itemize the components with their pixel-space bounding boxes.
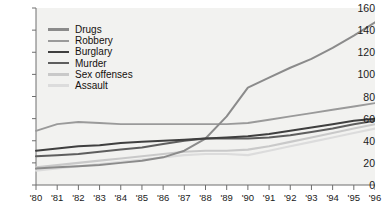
y-axis-tick-label: 0 xyxy=(347,180,375,190)
legend-label: Burglary xyxy=(75,46,112,57)
legend-item: Burglary xyxy=(48,46,133,57)
legend-color-swatch xyxy=(48,84,69,87)
y-axis-tick-label: 60 xyxy=(347,114,375,124)
legend-label: Assault xyxy=(75,80,108,91)
y-axis-tick-label: 120 xyxy=(347,47,375,57)
legend-label: Murder xyxy=(75,58,107,69)
legend-color-swatch xyxy=(48,51,69,53)
legend-color-swatch xyxy=(48,62,69,64)
legend-item: Robbery xyxy=(48,35,133,46)
legend-item: Assault xyxy=(48,80,133,91)
legend-color-swatch xyxy=(48,73,69,76)
chart-legend: DrugsRobberyBurglaryMurderSex offensesAs… xyxy=(48,24,133,91)
legend-label: Sex offenses xyxy=(75,69,133,80)
legend-item: Sex offenses xyxy=(48,69,133,80)
y-axis-tick-label: 20 xyxy=(347,158,375,168)
legend-label: Drugs xyxy=(75,24,102,35)
y-axis-tick-label: 40 xyxy=(347,136,375,146)
legend-color-swatch xyxy=(48,28,69,30)
legend-label: Robbery xyxy=(75,35,113,46)
legend-item: Murder xyxy=(48,58,133,69)
x-axis-tick-label: '96 xyxy=(362,193,386,203)
legend-color-swatch xyxy=(48,40,69,42)
legend-item: Drugs xyxy=(48,24,133,35)
y-axis-tick-label: 160 xyxy=(347,3,375,13)
y-axis-tick-label: 140 xyxy=(347,25,375,35)
y-axis-tick-label: 80 xyxy=(347,92,375,102)
y-axis-tick-label: 100 xyxy=(347,69,375,79)
